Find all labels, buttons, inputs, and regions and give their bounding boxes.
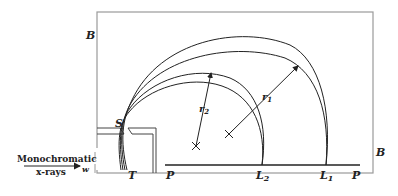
electron-trajectories	[119, 37, 327, 170]
photoelectron-spectrometer-diagram: B B S T P P L2 L1 r2 r1 Monochromatic x-…	[0, 0, 398, 196]
beam-frequency-symbol: w	[82, 164, 90, 174]
plate-label-right: P	[351, 169, 361, 182]
target-label: T	[128, 169, 137, 182]
beam-label-monochromatic: Monochromatic	[17, 154, 97, 164]
slit-plate-right	[128, 128, 156, 173]
field-label-left: B	[85, 29, 95, 42]
line-1-label: L1	[319, 169, 333, 183]
field-label-right: B	[375, 146, 385, 159]
beam-label-xrays: x-rays	[36, 167, 66, 177]
slit-label: S	[115, 117, 123, 130]
plate-label-left: P	[165, 169, 175, 182]
line-2-label: L2	[255, 169, 270, 183]
radius-2-label: r2	[199, 103, 209, 116]
